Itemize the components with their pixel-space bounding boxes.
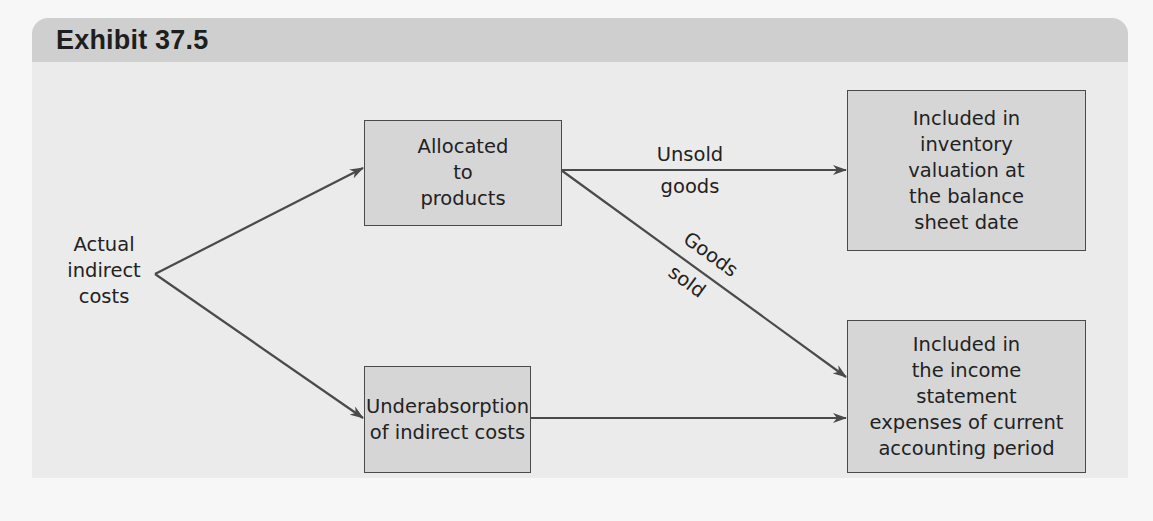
node-line: valuation at: [908, 158, 1024, 184]
arrow-source-to-underabsorption: [155, 274, 363, 418]
node-line: Included in: [870, 332, 1064, 358]
node-line: inventory: [908, 132, 1024, 158]
edge-label-unsold: Unsold: [640, 142, 740, 168]
node-line: the balance: [908, 184, 1024, 210]
node-line: to: [418, 160, 509, 186]
node-income-statement: Included in the income statement expense…: [847, 320, 1086, 473]
node-line: Allocated: [418, 134, 509, 160]
node-line: Included in: [908, 106, 1024, 132]
source-line: costs: [58, 284, 150, 310]
node-line: of indirect costs: [366, 420, 529, 446]
node-line: statement: [870, 384, 1064, 410]
node-line: expenses of current: [870, 410, 1064, 436]
source-node-label: Actual indirect costs: [58, 232, 150, 310]
node-underabsorption: Underabsorption of indirect costs: [364, 366, 531, 473]
node-allocated-to-products: Allocated to products: [364, 120, 562, 226]
node-line: accounting period: [870, 436, 1064, 462]
source-line: indirect: [58, 258, 150, 284]
source-line: Actual: [58, 232, 150, 258]
node-inventory-valuation: Included in inventory valuation at the b…: [847, 90, 1086, 251]
edge-label-goods: goods: [640, 174, 740, 200]
arrow-allocated-to-income: [561, 170, 846, 377]
arrow-source-to-allocated: [155, 168, 363, 274]
node-line: sheet date: [908, 210, 1024, 236]
node-line: products: [418, 186, 509, 212]
node-line: Underabsorption: [366, 394, 529, 420]
node-line: the income: [870, 358, 1064, 384]
